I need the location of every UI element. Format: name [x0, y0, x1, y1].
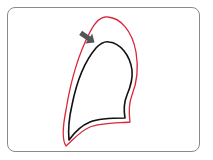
inner-black-outline: [69, 42, 133, 140]
arrow-icon: [77, 28, 98, 48]
outer-red-outline: [63, 17, 137, 146]
lung-diagram: [0, 0, 213, 160]
